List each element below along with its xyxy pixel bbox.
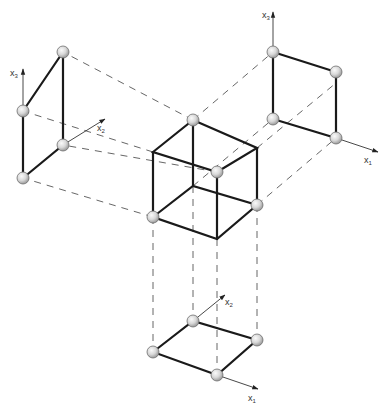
vertex-node (17, 105, 29, 117)
projection-lines (23, 52, 336, 375)
square-outline (273, 52, 336, 138)
vertex-node (187, 114, 199, 126)
cube-bottom-face (153, 186, 257, 239)
square-outline (23, 52, 63, 178)
vertex-node (17, 172, 29, 184)
cube-projection-diagram: x3 x2 x3 x1 x2 (0, 0, 390, 411)
vertex-node (187, 315, 199, 327)
vertex-node (330, 66, 342, 78)
projection-x2-x3: x3 x2 (10, 46, 106, 184)
x1-axis-arrow-icon (336, 138, 378, 152)
vertex-node (147, 211, 159, 223)
vertex-node (251, 199, 263, 211)
vertex-node (267, 113, 279, 125)
vertex-node (211, 166, 223, 178)
vertex-node (330, 132, 342, 144)
projection-line (193, 52, 273, 120)
vertex-node (57, 46, 69, 58)
vertex-node (211, 369, 223, 381)
vertex-node (147, 346, 159, 358)
projection-line (23, 178, 153, 217)
projection-line (23, 111, 153, 152)
vertex-node (267, 46, 279, 58)
projection-line (63, 52, 193, 120)
square-outline (153, 321, 257, 375)
axis-label-x2-bottom: x2 (225, 297, 234, 308)
axis-label-x1-bottom: x1 (248, 393, 257, 404)
axis-label-x2-left: x2 (97, 123, 106, 134)
axis-label-x3-left: x3 (10, 68, 19, 79)
projection-x1-x2: x2 x1 (147, 295, 263, 404)
vertex-node (57, 139, 69, 151)
axis-label-x1-right: x1 (364, 155, 373, 166)
projection-x1-x3: x3 x1 (262, 10, 378, 166)
cube-top-face (153, 120, 257, 172)
projection-line (193, 119, 273, 186)
x1-axis-arrow-icon (217, 375, 258, 389)
axis-label-x3-right: x3 (262, 10, 271, 21)
vertex-node (251, 334, 263, 346)
projection-line (257, 138, 336, 205)
